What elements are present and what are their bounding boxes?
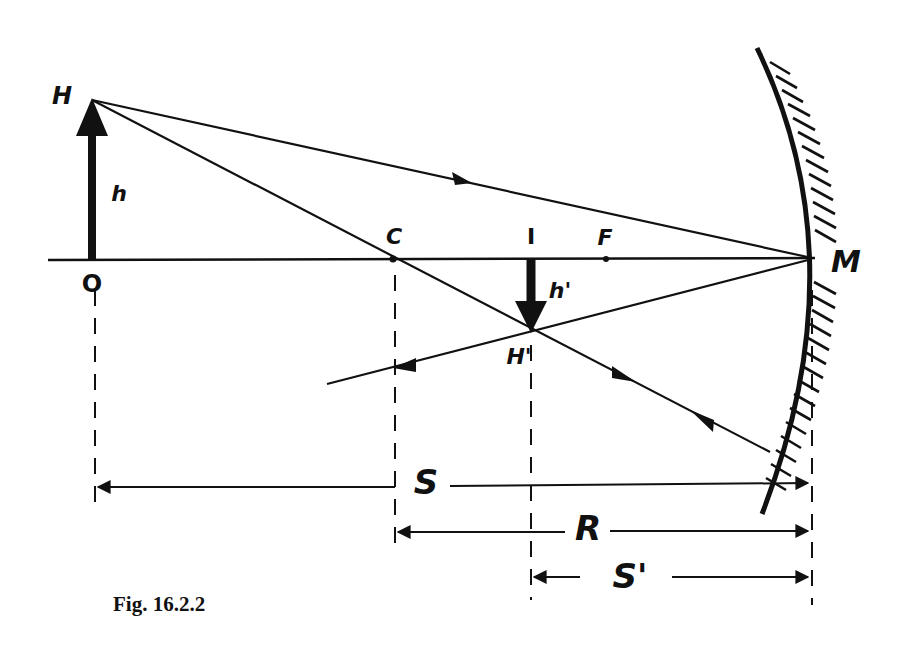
label-image-distance: S' bbox=[613, 556, 648, 596]
center-point bbox=[390, 256, 397, 263]
label-center: C bbox=[386, 224, 402, 249]
label-object-base: O bbox=[82, 270, 102, 298]
label-object-height: h bbox=[111, 181, 127, 206]
figure-caption: Fig. 16.2.2 bbox=[113, 592, 205, 617]
mirror-hatching bbox=[766, 62, 836, 490]
ray-through-center bbox=[92, 100, 770, 452]
figure-canvas: H h O C I F h' H' M S R S' Fig. 16.2.2 bbox=[0, 0, 910, 649]
label-focus: F bbox=[597, 225, 612, 250]
focus-point bbox=[603, 256, 609, 262]
dimension-s-right bbox=[450, 483, 808, 486]
label-image-base: I bbox=[527, 224, 535, 249]
ray-diagram bbox=[0, 0, 910, 649]
label-object-distance: S bbox=[414, 462, 439, 502]
label-radius: R bbox=[575, 508, 601, 548]
label-h-object-tip: H bbox=[52, 82, 72, 110]
ray-h-to-m bbox=[92, 100, 812, 258]
object-arrowhead bbox=[76, 98, 108, 136]
principal-axis bbox=[48, 258, 815, 260]
ray-arrow-icon bbox=[690, 410, 714, 432]
label-mirror-vertex: M bbox=[831, 244, 861, 279]
concave-mirror bbox=[757, 48, 810, 514]
label-image-height: h' bbox=[549, 278, 571, 303]
label-image-tip: H' bbox=[506, 344, 531, 369]
ray-arrow-icon bbox=[452, 172, 472, 185]
extension-lines bbox=[95, 275, 812, 605]
